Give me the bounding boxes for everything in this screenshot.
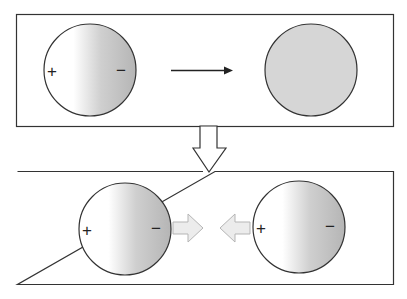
plus-sign: + [47, 62, 57, 81]
bottom-panel: + − + − [18, 172, 394, 285]
top-panel: + − [17, 15, 394, 127]
minus-sign: − [325, 217, 335, 236]
top-left-polarized-sphere: + − [44, 24, 136, 116]
bottom-right-polarized-sphere: + − [253, 181, 345, 273]
hollow-down-arrow-icon [193, 126, 226, 172]
bottom-left-polarized-sphere: + − [79, 183, 171, 275]
plus-sign: + [256, 219, 266, 238]
minus-sign: − [116, 61, 126, 80]
top-right-neutral-sphere [265, 24, 357, 116]
right-hollow-arrow-icon [173, 214, 203, 242]
left-hollow-arrow-icon [220, 214, 250, 242]
diagram-canvas: + − + − + − [0, 0, 407, 299]
minus-sign: − [151, 219, 161, 238]
plus-sign: + [82, 221, 92, 240]
